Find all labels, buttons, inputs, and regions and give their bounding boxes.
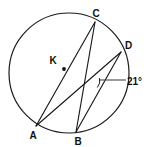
vertex-label-k: K (49, 55, 57, 66)
circle-center-dot (62, 67, 66, 71)
angle-arc-21 (97, 78, 100, 87)
vertex-label-c: C (92, 8, 99, 19)
vertex-label-d: D (125, 40, 132, 51)
vertex-label-a: A (29, 130, 36, 141)
circle-outline (9, 13, 129, 133)
geometry-canvas: A B C D K 21° (0, 0, 155, 147)
vertex-label-b: B (74, 136, 81, 147)
angle-measure-label: 21° (127, 76, 142, 87)
geometry-figure: A B C D K 21° (0, 0, 155, 147)
